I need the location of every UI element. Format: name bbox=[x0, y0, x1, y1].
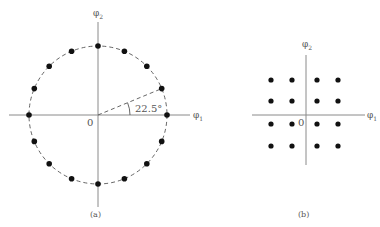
x-axis-label: φ1 bbox=[367, 110, 377, 122]
constellation-point bbox=[335, 143, 340, 148]
constellation-point bbox=[26, 112, 32, 118]
figure-b: 0 φ1 φ2 (b) bbox=[252, 39, 377, 219]
constellation-point bbox=[69, 49, 75, 55]
origin-label: 0 bbox=[87, 117, 93, 128]
caption-b: (b) bbox=[298, 210, 309, 219]
constellation-point bbox=[144, 161, 150, 167]
constellation-point bbox=[69, 176, 75, 182]
constellation-point bbox=[314, 121, 319, 126]
constellation-point bbox=[159, 139, 165, 145]
constellation-point bbox=[32, 86, 38, 92]
constellation-point bbox=[289, 143, 294, 148]
constellation-point bbox=[122, 176, 128, 182]
angle-label: 22.5° bbox=[135, 103, 162, 114]
constellation-point bbox=[335, 98, 340, 103]
constellation-diagrams: 0 22.5° φ1 φ2 (a) 0 φ1 φ2 (b) bbox=[0, 0, 380, 227]
constellation-point bbox=[164, 112, 170, 118]
caption-a: (a) bbox=[90, 210, 101, 219]
x-axis-label: φ1 bbox=[193, 110, 203, 122]
constellation-point bbox=[268, 98, 273, 103]
constellation-point bbox=[314, 143, 319, 148]
constellation-point bbox=[314, 77, 319, 82]
constellation-point bbox=[268, 121, 273, 126]
constellation-point bbox=[32, 139, 38, 145]
constellation-point bbox=[289, 121, 294, 126]
constellation-point bbox=[95, 43, 101, 49]
constellation-point bbox=[95, 181, 101, 187]
constellation-point bbox=[268, 143, 273, 148]
constellation-point bbox=[122, 49, 128, 55]
y-axis-label: φ2 bbox=[93, 8, 103, 20]
qam-points bbox=[268, 77, 340, 148]
origin-label: 0 bbox=[298, 117, 304, 128]
figure-a: 0 22.5° φ1 φ2 (a) bbox=[9, 8, 203, 219]
constellation-point bbox=[335, 77, 340, 82]
constellation-point bbox=[268, 77, 273, 82]
constellation-point bbox=[159, 86, 165, 92]
constellation-point bbox=[289, 77, 294, 82]
constellation-point bbox=[335, 121, 340, 126]
angle-arc bbox=[128, 103, 130, 115]
constellation-point bbox=[289, 98, 294, 103]
constellation-point bbox=[144, 63, 150, 69]
y-axis-label: φ2 bbox=[302, 39, 312, 51]
constellation-point bbox=[314, 98, 319, 103]
constellation-point bbox=[46, 63, 52, 69]
constellation-point bbox=[46, 161, 52, 167]
